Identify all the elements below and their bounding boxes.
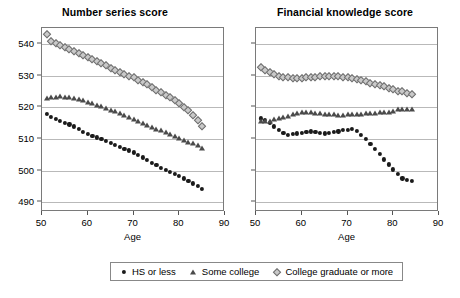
y-tick-mark xyxy=(251,138,255,139)
x-tick-label: 80 xyxy=(173,217,184,228)
legend: HS or less Some college College graduate… xyxy=(110,262,403,281)
data-point xyxy=(291,132,295,136)
data-point xyxy=(182,176,186,180)
x-tick-label: 60 xyxy=(295,217,306,228)
y-tick-label: 540 xyxy=(0,37,34,48)
x-tick-mark xyxy=(41,211,42,215)
data-point xyxy=(382,157,386,161)
data-point xyxy=(173,172,177,176)
data-point xyxy=(355,129,359,133)
data-point xyxy=(272,124,276,128)
y-tick-mark xyxy=(251,169,255,170)
diamond-icon xyxy=(273,268,280,275)
y-tick-mark xyxy=(37,74,41,75)
data-point xyxy=(99,137,103,141)
panel-title-left: Number series score xyxy=(0,6,230,18)
data-point xyxy=(159,165,163,169)
data-point xyxy=(127,148,131,152)
gridline-horizontal xyxy=(42,107,223,108)
x-tick-label: 70 xyxy=(341,217,352,228)
data-point xyxy=(373,147,377,151)
data-point xyxy=(81,130,85,134)
figure-container: Number series score 49050051052053054050… xyxy=(0,0,460,298)
gridline-horizontal xyxy=(256,44,437,45)
data-point xyxy=(277,127,281,131)
x-tick-label: 90 xyxy=(433,217,444,228)
data-point xyxy=(332,130,336,134)
data-point xyxy=(304,130,308,134)
data-point xyxy=(44,112,48,116)
data-point xyxy=(104,139,108,143)
plot-area xyxy=(41,27,224,211)
data-point xyxy=(150,160,154,164)
x-tick-label: 90 xyxy=(219,217,230,228)
legend-item-college-graduate: College graduate or more xyxy=(273,266,393,277)
x-tick-mark xyxy=(178,211,179,215)
data-point xyxy=(318,131,322,135)
x-tick-mark xyxy=(87,211,88,215)
data-point xyxy=(377,152,381,156)
x-tick-label: 50 xyxy=(250,217,261,228)
data-point xyxy=(341,128,345,132)
gridline-horizontal xyxy=(42,139,223,140)
data-point xyxy=(141,155,145,159)
legend-item-hs-or-less: HS or less xyxy=(120,266,176,277)
y-tick-mark xyxy=(37,201,41,202)
data-point xyxy=(309,129,313,133)
gridline-horizontal xyxy=(256,202,437,203)
data-point xyxy=(168,170,172,174)
data-point xyxy=(195,184,199,188)
data-point xyxy=(396,172,400,176)
data-point xyxy=(49,115,53,119)
data-point xyxy=(77,127,81,131)
data-point xyxy=(409,179,413,183)
data-point xyxy=(300,131,304,135)
y-tick-label: 510 xyxy=(0,133,34,144)
y-tick-label: 530 xyxy=(0,69,34,80)
y-tick-mark xyxy=(37,42,41,43)
data-point xyxy=(198,122,206,130)
chart-panel-number-series: Number series score 49050051052053054050… xyxy=(0,0,230,250)
data-point xyxy=(118,145,122,149)
data-point xyxy=(58,119,62,123)
data-point xyxy=(131,150,135,154)
data-point xyxy=(359,132,363,136)
x-axis-label: Age xyxy=(338,231,355,242)
legend-label-hs-or-less: HS or less xyxy=(132,266,176,277)
y-tick-label: 500 xyxy=(0,164,34,175)
data-point xyxy=(54,117,58,121)
x-tick-mark xyxy=(347,211,348,215)
y-tick-mark xyxy=(37,106,41,107)
x-tick-label: 50 xyxy=(36,217,47,228)
y-tick-label: 490 xyxy=(0,196,34,207)
triangle-icon xyxy=(190,268,197,275)
data-point xyxy=(113,143,117,147)
data-point xyxy=(336,129,340,133)
data-point xyxy=(200,186,204,190)
data-point xyxy=(405,178,409,182)
y-tick-mark xyxy=(37,138,41,139)
data-point xyxy=(400,176,404,180)
legend-item-some-college: Some college xyxy=(190,266,260,277)
data-point xyxy=(368,142,372,146)
filled-circle-icon xyxy=(120,268,127,275)
panel-title-right: Financial knowledge score xyxy=(230,6,460,18)
gridline-horizontal xyxy=(42,202,223,203)
data-point xyxy=(154,163,158,167)
data-point xyxy=(109,141,113,145)
gridline-horizontal xyxy=(256,171,437,172)
chart-panel-financial-knowledge: Financial knowledge score 5060708090Age xyxy=(230,0,460,250)
data-point xyxy=(122,146,126,150)
data-point xyxy=(63,120,67,124)
data-point xyxy=(67,122,71,126)
data-point xyxy=(323,131,327,135)
plot-area xyxy=(255,27,438,211)
x-tick-mark xyxy=(255,211,256,215)
data-point xyxy=(191,181,195,185)
x-tick-mark xyxy=(392,211,393,215)
data-point xyxy=(72,124,76,128)
data-point xyxy=(136,153,140,157)
x-tick-mark xyxy=(133,211,134,215)
data-point xyxy=(86,132,90,136)
data-point xyxy=(313,130,317,134)
